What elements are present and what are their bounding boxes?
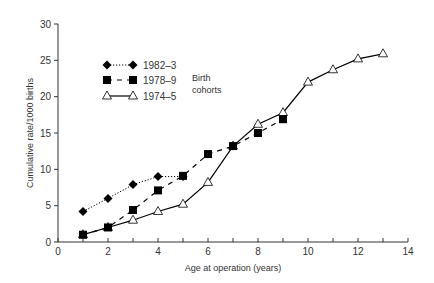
legend-label: 1982–3 [143,60,177,71]
x-tick-label: 14 [402,246,414,257]
triangle-marker-icon [179,199,188,207]
legend-title-line1: Birth [192,73,211,83]
x-tick-label: 0 [55,246,61,257]
y-tick-label: 15 [40,128,52,139]
series-group [79,49,388,239]
x-tick-label: 6 [205,246,211,257]
legend-label: 1978–9 [143,75,177,86]
line-chart: 05101520253002468101214 1982–3 1978–9 19… [0,0,434,283]
legend-item-1974-5: 1974–5 [103,91,177,102]
legend-label: 1974–5 [143,91,177,102]
diamond-marker-icon [79,207,88,216]
diamond-marker-icon [103,61,112,70]
y-tick-label: 25 [40,55,52,66]
y-tick-label: 5 [45,200,51,211]
x-tick-label: 4 [155,246,161,257]
square-marker-icon [129,76,137,84]
square-marker-icon [104,223,112,231]
diamond-marker-icon [154,172,163,181]
y-axis-title: Cumulative rate/1000 births [25,77,35,188]
x-tick-label: 10 [302,246,314,257]
diamond-marker-icon [104,194,113,203]
diamond-marker-icon [129,61,138,70]
square-marker-icon [229,142,237,150]
diamond-marker-icon [129,180,138,189]
legend-item-1982-3: 1982–3 [103,60,177,71]
square-marker-icon [254,129,262,137]
x-tick-label: 2 [105,246,111,257]
triangle-marker-icon [129,91,138,99]
x-tick-label: 12 [352,246,364,257]
legend: 1982–3 1978–9 1974–5 Birth cohorts [103,60,223,102]
y-tick-label: 10 [40,164,52,175]
square-marker-icon [79,231,87,239]
y-tick-label: 0 [45,237,51,248]
square-marker-icon [204,150,212,158]
square-marker-icon [129,206,137,214]
y-tick-label: 30 [40,19,52,30]
y-tick-label: 20 [40,91,52,102]
triangle-marker-icon [379,49,388,57]
legend-title-line2: cohorts [192,85,222,95]
triangle-marker-icon [103,91,112,99]
square-marker-icon [279,115,287,123]
square-marker-icon [154,186,162,194]
x-tick-label: 8 [255,246,261,257]
square-marker-icon [103,76,111,84]
x-axis-title: Age at operation (years) [185,263,282,273]
legend-item-1978-9: 1978–9 [103,75,177,86]
